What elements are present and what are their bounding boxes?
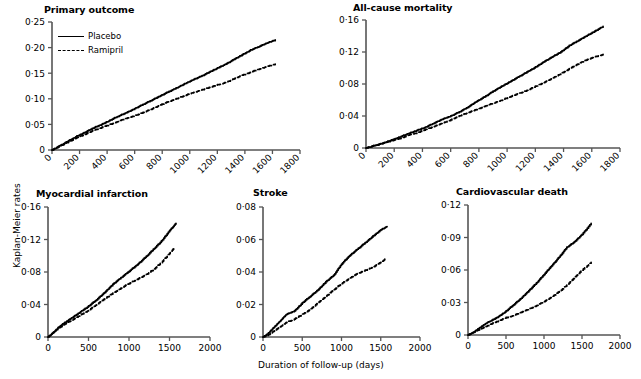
plot-stroke: 00·020·040·060·080500100015002000 [215,185,440,379]
x-tick-label: 1400 [542,150,565,173]
x-tick-label: 800 [461,150,480,169]
x-tick-label: 0 [45,343,51,353]
y-tick-label: 0·15 [25,69,45,79]
x-tick-label: 1000 [485,150,508,173]
y-tick-label: 0·08 [21,267,41,277]
x-tick-label: 200 [62,152,81,171]
plot-cardiovascular-death: 00·030·060·090·120500100015002000 [420,185,641,379]
panel-cardiovascular-death: Cardiovascular death 00·030·060·090·1205… [420,185,641,379]
x-tick-label: 400 [405,150,424,169]
y-tick-label: 0·06 [236,235,256,245]
curve-placebo [263,227,387,338]
y-tick-label: 0 [250,332,256,342]
x-tick-label: 800 [144,152,163,171]
panel-all-cause-mortality: All-cause mortality 00·040·080·120·16020… [320,0,641,190]
x-tick-label: 0 [465,341,471,351]
x-tick-label: 1400 [223,152,246,175]
y-tick-label: 0·12 [21,235,41,245]
y-tick-label: 0·25 [25,17,45,27]
x-tick-label: 1000 [330,343,353,353]
panel-myocardial-infarction: Myocardial infarction 00·040·080·120·160… [0,185,230,379]
y-tick-label: 0·10 [25,94,45,104]
y-tick-label: 0·04 [21,300,41,310]
plot-primary-outcome: 00·050·100·150·200·250200400600800100012… [0,0,320,190]
panel-title-all-cause-mortality: All-cause mortality [353,2,452,13]
x-tick-label: 1200 [513,150,536,173]
y-tick-label: 0·04 [236,267,256,277]
x-tick-label: 400 [89,152,108,171]
curve-ramipril [366,54,603,148]
y-tick-label: 0 [455,330,461,340]
x-tick-label: 1000 [168,152,191,175]
y-tick-label: 0·20 [25,43,45,53]
y-tick-label: 0·02 [236,300,256,310]
panel-title-myocardial-infarction: Myocardial infarction [36,188,148,199]
x-tick-label: 1000 [118,343,141,353]
y-tick-label: 0·16 [339,15,359,25]
y-tick-label: 0·08 [236,202,256,212]
x-tick-label: 500 [497,341,514,351]
x-tick-label: 500 [80,343,97,353]
panel-title-stroke: Stroke [253,187,288,198]
legend-ramipril-label: Ramipril [88,45,123,55]
x-tick-label: 1500 [158,343,181,353]
y-tick-label: 0·08 [339,79,359,89]
x-tick-label: 2000 [609,341,632,351]
x-tick-label: 0 [260,343,266,353]
curve-placebo [366,26,603,148]
x-tick-label: 1600 [251,152,274,175]
panel-primary-outcome: Primary outcome 00·050·100·150·200·25020… [0,0,320,190]
x-tick-label: 1800 [278,152,301,175]
plot-all-cause-mortality: 00·040·080·120·1602004006008001000120014… [320,0,641,190]
x-tick-label: 1000 [533,341,556,351]
y-tick-label: 0·03 [441,298,461,308]
y-tick-label: 0·09 [441,233,461,243]
panel-title-cardiovascular-death: Cardiovascular death [456,186,568,197]
x-tick-label: 1200 [195,152,218,175]
y-tick-label: 0·04 [339,111,359,121]
x-tick-label: 600 [433,150,452,169]
y-tick-label: 0·05 [25,120,45,130]
x-tick-label: 1500 [369,343,392,353]
x-tick-label: 1800 [598,150,621,173]
panel-title-primary-outcome: Primary outcome [44,4,134,15]
y-tick-label: 0·12 [441,200,461,210]
legend-ramipril-line [58,50,84,51]
legend-placebo-line [58,36,84,37]
x-tick-label: 200 [376,150,395,169]
y-tick-label: 0·16 [21,202,41,212]
curve-ramipril [263,259,385,337]
curve-placebo [48,223,176,337]
plot-myocardial-infarction: 00·040·080·120·160500100015002000 [0,185,230,379]
curve-ramipril [48,248,174,337]
legend-placebo-label: Placebo [88,31,121,41]
panel-stroke: Stroke 00·020·040·060·080500100015002000 [215,185,440,379]
curve-ramipril [52,64,275,150]
x-tick-label: 1600 [570,150,593,173]
kaplan-meier-figure: Kaplan-Meier rates Duration of follow-up… [0,0,641,379]
y-tick-label: 0 [35,332,41,342]
x-tick-label: 500 [294,343,311,353]
y-tick-label: 0·06 [441,265,461,275]
x-tick-label: 600 [117,152,136,171]
x-tick-label: 1500 [571,341,594,351]
y-tick-label: 0·12 [339,47,359,57]
